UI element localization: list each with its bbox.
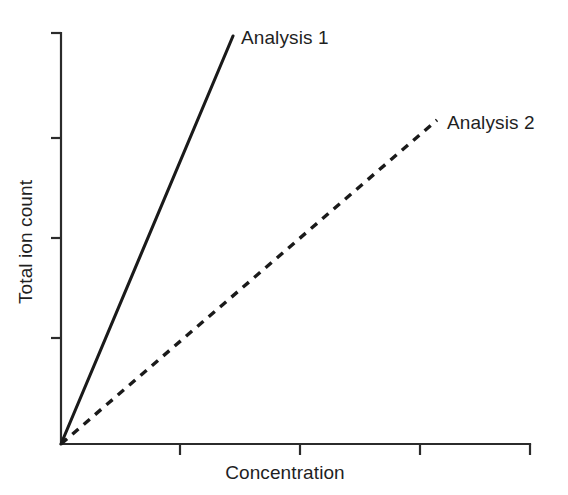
y-axis-title: Total ion count bbox=[15, 179, 36, 304]
chart-figure: Analysis 1 Analysis 2 Concentration Tota… bbox=[0, 0, 568, 495]
chart-background bbox=[0, 0, 568, 495]
series-label-analysis-1: Analysis 1 bbox=[241, 27, 329, 48]
series-label-analysis-2: Analysis 2 bbox=[447, 112, 535, 133]
line-chart-svg: Analysis 1 Analysis 2 Concentration Tota… bbox=[0, 0, 568, 495]
x-axis-title: Concentration bbox=[225, 462, 345, 483]
